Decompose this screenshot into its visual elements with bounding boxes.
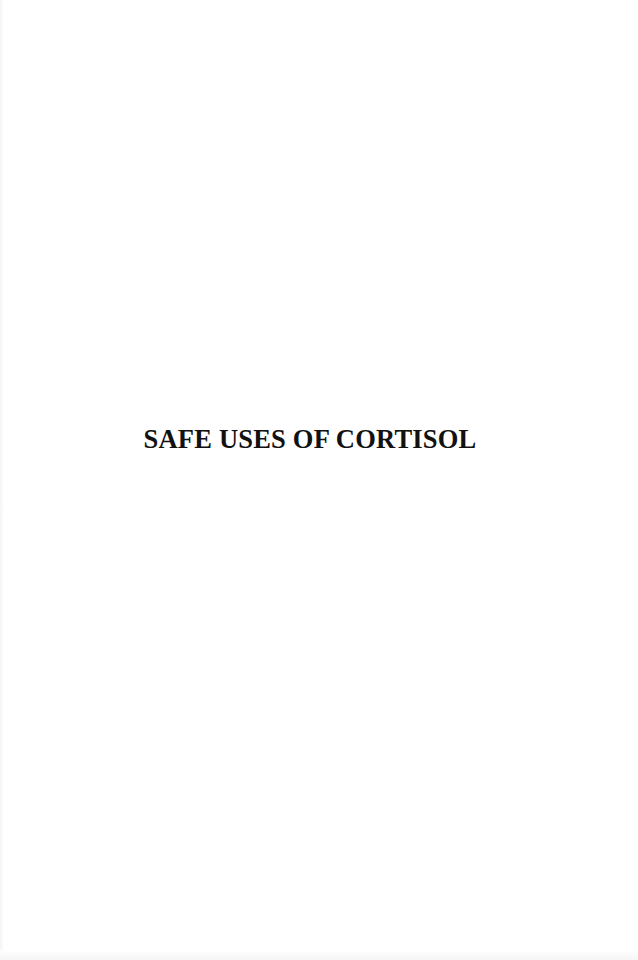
scan-edge-left (0, 0, 4, 960)
scan-edge-bottom (0, 950, 638, 960)
book-page: SAFE USES OF CORTISOL (0, 0, 638, 960)
page-title: SAFE USES OF CORTISOL (0, 423, 620, 455)
